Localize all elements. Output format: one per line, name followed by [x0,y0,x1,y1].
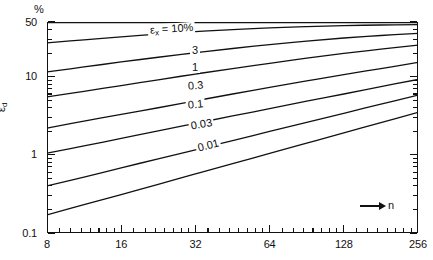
y-axis-title-subscript: d [0,103,9,107]
x-axis-tick-label: 256 [398,239,433,250]
curve-0.03 [47,79,418,153]
curve-0.1 [47,62,418,128]
y-axis-title: εd [0,103,10,112]
curve-3 [47,25,418,43]
x-axis-title: n [360,200,394,211]
curve-1 [47,33,418,71]
curve-label: 0.3 [186,79,206,92]
y-axis-title-symbol: ε [0,107,7,112]
y-axis-tick-label: 50 [0,17,37,28]
y-axis-tick-label: 1 [0,149,37,160]
x-axis-tick-label: 32 [175,239,215,250]
x-axis-title-text: n [388,200,394,211]
curve-label: 1 [190,62,200,73]
curve-0.01 [47,95,418,186]
y-axis-unit-label: % [34,4,44,15]
curve-label: 3 [190,45,200,56]
x-axis-tick-label: 8 [27,239,67,250]
arrow-right-icon [360,201,386,210]
x-axis-tick-label: 16 [101,239,141,250]
figure-root: % εd εx = 10%310.30.10.030.01 0.111050 8… [0,0,433,260]
x-axis-tick-label: 64 [250,239,290,250]
x-axis-tick-label: 128 [324,239,364,250]
y-axis-tick-label: 10 [0,71,37,82]
curve-label: 0.1 [185,98,205,111]
y-axis-tick-label: 0.1 [0,228,37,239]
